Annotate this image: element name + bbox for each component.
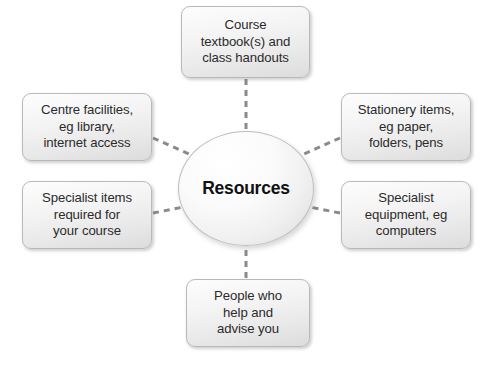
node-line: advise you: [208, 321, 288, 338]
node-line: internet access: [35, 135, 139, 152]
node-line: folders, pens: [352, 135, 461, 152]
node-stationery-items-label: Stationery items, eg paper, folders, pen…: [346, 102, 467, 153]
node-line: eg library,: [35, 119, 139, 136]
diagram-canvas: Resources Course textbook(s) and class h…: [0, 0, 488, 365]
node-stationery-items[interactable]: Stationery items, eg paper, folders, pen…: [341, 93, 471, 161]
center-node-label: Resources: [202, 178, 290, 199]
node-line: Stationery items,: [352, 102, 461, 119]
node-specialist-items[interactable]: Specialist items required for your cours…: [22, 181, 152, 249]
node-line: equipment, eg: [359, 207, 453, 224]
center-node[interactable]: Resources: [178, 131, 314, 246]
node-line: your course: [36, 223, 138, 240]
node-specialist-equipment-label: Specialist equipment, eg computers: [353, 190, 459, 241]
node-line: Specialist: [359, 190, 453, 207]
node-people-who-help[interactable]: People who help and advise you: [186, 279, 310, 347]
node-line: eg paper,: [352, 119, 461, 136]
node-line: textbook(s) and: [195, 34, 296, 51]
node-line: Course: [195, 17, 296, 34]
node-course-textbooks-label: Course textbook(s) and class handouts: [189, 17, 302, 68]
node-specialist-equipment[interactable]: Specialist equipment, eg computers: [341, 181, 471, 249]
node-people-who-help-label: People who help and advise you: [202, 288, 294, 339]
node-line: class handouts: [195, 50, 296, 67]
node-centre-facilities-label: Centre facilities, eg library, internet …: [29, 102, 145, 153]
node-line: required for: [36, 207, 138, 224]
node-line: Centre facilities,: [35, 102, 139, 119]
node-specialist-items-label: Specialist items required for your cours…: [30, 190, 144, 241]
node-course-textbooks[interactable]: Course textbook(s) and class handouts: [181, 6, 310, 78]
node-line: computers: [359, 223, 453, 240]
node-line: Specialist items: [36, 190, 138, 207]
node-line: help and: [208, 305, 288, 322]
node-line: People who: [208, 288, 288, 305]
center-node-ellipse: Resources: [178, 131, 314, 246]
node-centre-facilities[interactable]: Centre facilities, eg library, internet …: [22, 93, 152, 161]
